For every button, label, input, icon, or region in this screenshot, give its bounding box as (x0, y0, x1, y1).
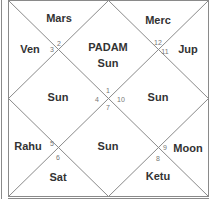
house-12-number: 12 (154, 39, 162, 46)
house-9-number: 9 (163, 144, 167, 151)
house-5-planets: Rahu (14, 140, 42, 152)
house-10-number: 10 (117, 96, 125, 103)
house-1-planets: Sun (98, 57, 119, 69)
house-3-number: 3 (50, 46, 54, 53)
house-7-number: 7 (106, 104, 110, 111)
chart-grid (8, 0, 209, 199)
house-4-number: 4 (95, 96, 99, 103)
house-2-number: 2 (57, 40, 61, 47)
kundli-chart: PADAM Sun 1 Mars 2 Ven 3 Sun 4 Rahu 5 Sa… (8, 0, 209, 199)
house-11-number: 11 (161, 48, 168, 55)
house-6-number: 6 (56, 154, 60, 161)
left-edge-line (1, 0, 2, 199)
house-8-planets: Ketu (146, 170, 170, 182)
house-5-number: 5 (50, 140, 54, 147)
house-1-number: 1 (106, 87, 110, 94)
house-4-planets: Sun (48, 91, 69, 103)
house-3-planets: Ven (20, 43, 40, 55)
house-11-planets: Jup (178, 43, 198, 55)
house-7-planets: Sun (98, 140, 119, 152)
house-9-planets: Moon (173, 142, 202, 154)
house-2-planets: Mars (46, 12, 72, 24)
house-8-number: 8 (156, 155, 160, 162)
house-10-planets: Sun (148, 91, 169, 103)
house-6-planets: Sat (49, 171, 66, 183)
center-label: PADAM (88, 41, 128, 53)
house-12-planets: Merc (145, 14, 171, 26)
